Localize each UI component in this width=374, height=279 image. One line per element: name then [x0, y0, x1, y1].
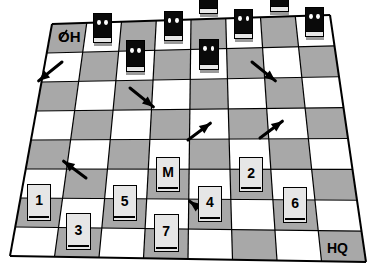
enemy-eye-icon — [246, 16, 250, 21]
player-card[interactable]: 2 — [239, 157, 262, 193]
enemy-token[interactable] — [126, 40, 146, 71]
enemy-eye-icon — [316, 14, 320, 19]
enemy-body — [126, 40, 146, 71]
player-card[interactable]: 6 — [283, 187, 307, 224]
enemy-token[interactable] — [164, 11, 183, 41]
player-card[interactable]: 7 — [154, 214, 179, 252]
enemy-base — [235, 33, 252, 38]
card-base — [285, 218, 305, 220]
card-face: 1 — [27, 184, 51, 221]
direction-arrow-icon — [260, 121, 282, 138]
card-label: 2 — [247, 166, 255, 180]
direction-arrow-icon — [252, 62, 275, 81]
destination-label: HQ — [327, 240, 348, 256]
enemy-token[interactable] — [199, 0, 218, 14]
enemy-eye-icon — [309, 14, 313, 19]
card-label: 1 — [35, 193, 43, 207]
card-face: M — [156, 157, 179, 193]
enemy-eye-icon — [104, 20, 108, 25]
enemy-base — [165, 35, 182, 40]
movement-arrows — [0, 0, 374, 279]
enemy-body — [270, 0, 289, 12]
enemy-shadow — [94, 43, 112, 46]
enemy-body — [164, 11, 183, 41]
card-base — [68, 245, 89, 247]
origin-label-text: OH — [58, 28, 81, 45]
enemy-eye-icon — [137, 48, 141, 53]
enemy-base — [306, 31, 323, 36]
game-board-scene: 1357M426 OH HQ — [0, 0, 374, 279]
enemy-eye-icon — [97, 20, 101, 25]
card-label: 4 — [206, 195, 214, 209]
card-face: 4 — [198, 186, 222, 223]
enemy-base — [127, 66, 145, 71]
card-face: 5 — [113, 185, 137, 222]
enemy-body — [93, 13, 112, 43]
card-base — [114, 216, 134, 218]
enemy-eye-icon — [175, 18, 179, 23]
card-base — [200, 217, 220, 219]
enemy-token[interactable] — [93, 13, 112, 43]
origin-label: OH — [58, 28, 81, 45]
enemy-eye-icon — [238, 16, 242, 21]
enemy-token[interactable] — [270, 0, 289, 12]
card-base — [241, 187, 261, 189]
card-base — [156, 247, 177, 249]
enemy-token[interactable] — [199, 39, 219, 70]
card-label: 5 — [121, 194, 129, 208]
enemy-base — [200, 64, 218, 69]
card-base — [29, 216, 49, 218]
card-label: M — [162, 165, 174, 179]
destination-label-text: HQ — [327, 240, 348, 256]
enemy-shadow — [200, 70, 219, 73]
card-label: 7 — [162, 224, 170, 238]
enemy-shadow — [235, 39, 253, 42]
card-face: 7 — [154, 214, 179, 252]
player-card[interactable]: M — [156, 157, 179, 193]
enemy-token[interactable] — [305, 7, 324, 37]
direction-arrow-icon — [39, 62, 62, 81]
enemy-shadow — [126, 72, 145, 75]
enemy-token[interactable] — [234, 9, 253, 39]
enemy-shadow — [200, 14, 218, 17]
enemy-shadow — [270, 12, 288, 15]
enemy-eye-icon — [130, 48, 134, 53]
player-card[interactable]: 1 — [27, 184, 51, 221]
enemy-body — [199, 0, 218, 14]
enemy-eye-icon — [168, 18, 172, 23]
card-face: 3 — [66, 213, 91, 251]
card-base — [158, 187, 178, 189]
enemy-base — [94, 37, 111, 42]
enemy-base — [200, 8, 217, 13]
enemy-body — [305, 7, 324, 37]
player-card[interactable]: 4 — [198, 186, 222, 223]
player-card[interactable]: 3 — [66, 213, 91, 251]
card-label: 6 — [291, 196, 299, 210]
direction-arrow-icon — [188, 123, 210, 140]
enemy-shadow — [306, 37, 324, 40]
card-face: 6 — [283, 187, 307, 224]
enemy-base — [271, 6, 288, 11]
enemy-body — [199, 39, 219, 70]
direction-arrow-icon — [64, 161, 86, 178]
card-face: 2 — [239, 157, 262, 193]
enemy-eye-icon — [211, 46, 215, 51]
card-label: 3 — [75, 223, 83, 237]
enemy-body — [234, 9, 253, 39]
enemy-eye-icon — [203, 46, 207, 51]
direction-arrow-icon — [130, 88, 153, 107]
player-card[interactable]: 5 — [113, 185, 137, 222]
enemy-shadow — [164, 41, 182, 44]
